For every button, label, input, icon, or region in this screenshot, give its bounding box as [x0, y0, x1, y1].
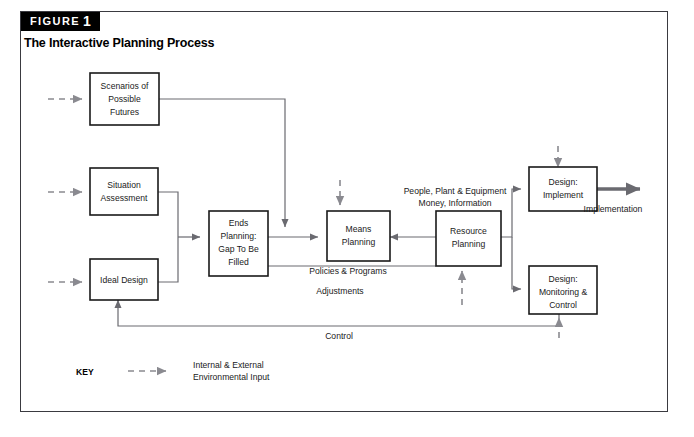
box-implement-line-0: Design:	[548, 177, 577, 187]
box-implement-line-1: Implement	[543, 190, 584, 200]
label-adjustments: Adjustments	[316, 286, 363, 296]
label-policies-programs: Policies & Programs	[309, 266, 386, 276]
connector-situation-ideal-to-ends	[158, 192, 200, 282]
box-scenarios-line-0: Scenarios of	[101, 81, 149, 91]
box-ends-line-1: Planning:	[221, 231, 257, 241]
box-situation-assessment[interactable]: Situation Assessment	[90, 168, 158, 215]
box-resource-planning[interactable]: Resource Planning	[436, 211, 501, 266]
key-description-line-0: Internal & External	[193, 360, 264, 370]
box-means-line-1: Planning	[342, 237, 376, 247]
box-monitoring-line-1: Monitoring &	[539, 287, 588, 297]
box-monitoring-line-0: Design:	[548, 274, 577, 284]
connector-control-feedback	[118, 300, 559, 326]
box-monitoring-line-2: Control	[549, 300, 577, 310]
box-scenarios-line-2: Futures	[110, 107, 139, 117]
label-resources: People, Plant & Equipment Money, Informa…	[404, 186, 507, 208]
box-situation-line-0: Situation	[107, 180, 141, 190]
label-resources-line-0: People, Plant & Equipment	[404, 186, 507, 196]
box-resource-line-1: Planning	[452, 239, 486, 249]
box-ends-planning[interactable]: Ends Planning: Gap To Be Filled	[209, 211, 268, 276]
box-ends-line-0: Ends	[229, 218, 249, 228]
box-situation-line-1: Assessment	[101, 193, 148, 203]
connector-resource-to-designs	[501, 189, 521, 289]
key-legend: KEY Internal & External Environmental In…	[76, 360, 270, 382]
label-resources-line-1: Money, Information	[419, 198, 492, 208]
box-scenarios[interactable]: Scenarios of Possible Futures	[90, 73, 159, 125]
box-ideal-line-0: Ideal Design	[100, 275, 148, 285]
figure-panel: FIGURE1 The Interactive Planning Process	[0, 0, 694, 437]
box-means-planning[interactable]: Means Planning	[327, 211, 390, 261]
label-control: Control	[325, 331, 353, 341]
key-label: KEY	[76, 367, 94, 377]
box-scenarios-line-1: Possible	[108, 94, 141, 104]
box-means-line-0: Means	[346, 224, 372, 234]
box-ideal-design[interactable]: Ideal Design	[90, 259, 158, 300]
flowchart-canvas: Scenarios of Possible Futures Situation …	[0, 0, 694, 437]
key-description-line-1: Environmental Input	[193, 372, 270, 382]
label-implementation: Implementation	[584, 204, 643, 214]
box-resource-line-0: Resource	[450, 226, 487, 236]
box-ends-line-2: Gap To Be	[218, 244, 259, 254]
box-ends-line-3: Filled	[228, 257, 249, 267]
box-design-monitoring-control[interactable]: Design: Monitoring & Control	[529, 266, 597, 314]
